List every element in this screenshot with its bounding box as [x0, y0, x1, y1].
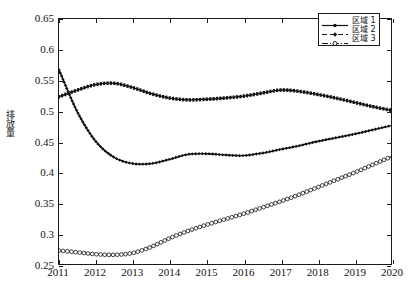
y-tick-label: 0.5 — [4, 105, 54, 116]
data-point-marker — [223, 96, 225, 100]
y-tick-mark — [59, 112, 63, 113]
data-point-marker — [141, 162, 144, 165]
y-tick-label: 0.65 — [4, 13, 54, 24]
data-point-marker — [202, 98, 204, 102]
data-point-marker — [155, 161, 158, 164]
data-point-marker — [241, 154, 244, 157]
data-point-marker — [87, 85, 89, 89]
data-point-marker — [174, 234, 178, 238]
y-tick-mark — [387, 173, 391, 174]
x-tick-mark — [96, 19, 97, 23]
data-point-marker — [115, 253, 119, 257]
data-point-marker — [344, 174, 348, 178]
data-point-marker — [242, 212, 246, 216]
data-point-marker — [334, 136, 337, 139]
data-point-marker — [86, 252, 90, 256]
data-point-marker — [78, 251, 82, 255]
series-markers-1 — [59, 81, 391, 111]
y-tick-mark — [59, 235, 63, 236]
data-point-marker — [324, 138, 327, 141]
x-tick-mark — [59, 260, 60, 264]
data-point-marker — [202, 224, 206, 228]
data-point-marker — [249, 93, 251, 97]
data-point-marker — [370, 128, 373, 131]
data-point-marker — [250, 209, 254, 213]
data-point-marker — [376, 106, 378, 110]
data-point-marker — [321, 139, 324, 142]
data-point-marker — [185, 98, 187, 102]
data-point-marker — [131, 162, 134, 165]
data-point-marker — [236, 95, 238, 99]
data-point-marker — [377, 127, 380, 130]
x-tick-mark — [170, 260, 171, 264]
data-point-marker — [226, 217, 230, 221]
data-point-marker — [94, 252, 98, 256]
data-point-marker — [124, 161, 127, 164]
data-point-marker — [124, 252, 128, 256]
data-point-marker — [238, 154, 241, 157]
data-point-marker — [172, 97, 174, 101]
data-point-marker — [265, 151, 268, 154]
y-tick-label: 0.3 — [4, 229, 54, 240]
x-tick-mark — [356, 260, 357, 264]
data-point-marker — [136, 87, 138, 91]
data-point-marker — [349, 100, 351, 104]
data-point-marker — [100, 82, 102, 86]
data-point-marker — [293, 194, 297, 198]
legend-sample-diamond-icon — [321, 25, 349, 34]
y-tick-mark — [59, 173, 63, 174]
data-point-marker — [346, 99, 348, 103]
data-point-marker — [177, 155, 180, 158]
data-point-marker — [71, 90, 73, 94]
data-point-marker — [96, 82, 98, 86]
y-tick-label: 0.55 — [4, 74, 54, 85]
data-point-marker — [285, 147, 288, 150]
data-point-marker — [387, 124, 390, 127]
data-point-marker — [139, 88, 141, 92]
y-tick-mark — [59, 204, 63, 205]
data-point-marker — [320, 184, 324, 188]
data-point-marker — [278, 148, 281, 151]
data-point-marker — [191, 152, 194, 155]
data-point-marker — [229, 96, 231, 100]
data-point-marker — [263, 91, 265, 95]
data-point-marker — [238, 213, 242, 217]
y-tick-mark — [387, 50, 391, 51]
data-point-marker — [294, 145, 297, 148]
legend-item-3[interactable]: 区域 3 — [321, 34, 376, 43]
data-point-marker — [255, 152, 258, 155]
data-point-marker — [286, 88, 288, 92]
data-point-marker — [224, 153, 227, 156]
data-point-marker — [304, 142, 307, 145]
x-tick-mark — [319, 260, 320, 264]
data-point-marker — [246, 94, 248, 98]
data-point-marker — [283, 88, 285, 92]
data-point-marker — [158, 160, 161, 163]
data-point-marker — [254, 208, 258, 212]
data-point-marker — [261, 151, 264, 154]
data-point-marker — [197, 152, 200, 155]
x-tick-label: 2017 — [270, 267, 292, 278]
data-point-marker — [351, 133, 354, 136]
data-point-marker — [123, 83, 125, 87]
data-point-marker — [313, 92, 315, 96]
data-point-marker — [309, 188, 313, 192]
plot-lines — [59, 19, 391, 264]
data-point-marker — [206, 97, 208, 101]
series-line-3 — [59, 157, 391, 255]
data-point-marker — [258, 152, 261, 155]
data-point-marker — [182, 98, 184, 102]
legend-item-2[interactable]: 区域 2 — [321, 25, 376, 34]
data-point-marker — [179, 98, 181, 102]
data-point-marker — [80, 87, 82, 91]
data-point-marker — [251, 153, 254, 156]
legend-sample-dot-icon — [321, 16, 349, 25]
data-point-marker — [187, 153, 190, 156]
legend-item-1[interactable]: 区域 1 — [321, 16, 376, 25]
data-point-marker — [320, 93, 322, 97]
data-point-marker — [364, 130, 367, 133]
data-point-marker — [339, 97, 341, 101]
data-point-marker — [301, 191, 305, 195]
data-point-marker — [128, 161, 131, 164]
y-tick-mark — [387, 143, 391, 144]
